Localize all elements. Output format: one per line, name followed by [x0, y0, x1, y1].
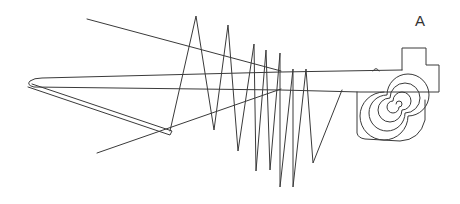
zigzag-coil [170, 16, 342, 187]
diagram-drawing [0, 0, 460, 204]
lower-cross-line [97, 89, 281, 153]
spiral-coil [360, 74, 429, 140]
upper-cross-line [87, 19, 281, 71]
tapered-bar [29, 48, 439, 92]
diagonal-rod [28, 84, 172, 135]
